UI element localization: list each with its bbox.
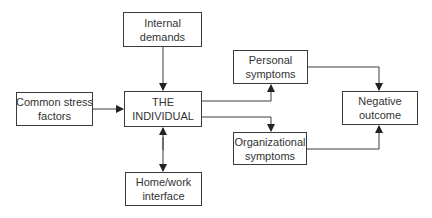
node-label: Internal	[144, 16, 181, 30]
node-label: Home/work	[136, 175, 192, 189]
node-the-individual: THE INDIVIDUAL	[124, 91, 202, 127]
node-label: Common stress	[16, 95, 93, 109]
arrow-individual-to-personal	[202, 85, 271, 101]
node-label: factors	[38, 109, 71, 123]
node-label: demands	[140, 30, 185, 44]
arrow-individual-to-organizational	[202, 117, 271, 131]
node-label: THE	[152, 95, 174, 109]
node-label: symptoms	[245, 67, 295, 81]
node-label: interface	[142, 189, 184, 203]
node-label: symptoms	[245, 149, 295, 163]
node-common-stress-factors: Common stress factors	[16, 92, 93, 126]
node-label: Personal	[249, 53, 292, 67]
node-label: outcome	[359, 108, 401, 122]
arrow-organizational-to-negative	[307, 126, 379, 149]
node-organizational-symptoms: Organizational symptoms	[233, 132, 307, 165]
node-label: Organizational	[235, 135, 306, 149]
node-label: Negative	[358, 94, 401, 108]
node-home-work-interface: Home/work interface	[125, 172, 202, 206]
node-label: INDIVIDUAL	[132, 109, 194, 123]
node-personal-symptoms: Personal symptoms	[233, 50, 308, 84]
arrow-personal-to-negative	[308, 67, 379, 90]
node-negative-outcome: Negative outcome	[342, 91, 418, 125]
node-internal-demands: Internal demands	[123, 12, 202, 47]
